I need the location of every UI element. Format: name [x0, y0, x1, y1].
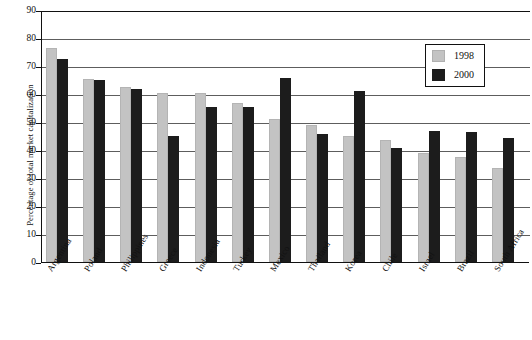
y-tick-label: 0 — [8, 258, 36, 268]
bar-2000 — [391, 148, 402, 262]
y-tick-mark — [36, 11, 41, 12]
y-tick-label: 70 — [8, 62, 36, 72]
black-swatch-icon — [432, 69, 445, 81]
x-label-cell: Korea — [343, 266, 380, 340]
bar-2000 — [94, 80, 105, 262]
bar-1998 — [455, 157, 466, 262]
bar-group — [269, 11, 306, 262]
x-label-cell: Philippines — [119, 266, 156, 340]
x-label-cell: Chile — [380, 266, 417, 340]
bar-group — [343, 11, 380, 262]
x-label-cell: South Africa — [492, 266, 529, 340]
bar-chart: Percentage of total market capitalizatio… — [0, 0, 532, 340]
bar-group — [157, 11, 194, 262]
bar-1998 — [380, 140, 391, 262]
bar-2000 — [243, 107, 254, 262]
x-axis-labels: ArgentinaPolandPhilippinesGreeceIndonesi… — [41, 266, 529, 340]
legend-label: 2000 — [454, 70, 474, 80]
y-tick-mark — [36, 179, 41, 180]
bar-group — [120, 11, 157, 262]
legend: 1998 2000 — [425, 44, 485, 87]
y-tick-label: 60 — [8, 90, 36, 100]
y-tick-label: 20 — [8, 202, 36, 212]
bar-1998 — [83, 79, 94, 262]
bar-2000 — [168, 136, 179, 262]
y-tick-mark — [36, 235, 41, 236]
bar-1998 — [157, 93, 168, 262]
bar-1998 — [46, 48, 57, 262]
bar-2000 — [429, 131, 440, 262]
bar-1998 — [418, 153, 429, 262]
y-tick-label: 10 — [8, 230, 36, 240]
x-label-cell: Brazil — [455, 266, 492, 340]
bar-2000 — [280, 78, 291, 262]
bar-1998 — [195, 93, 206, 262]
x-label-cell: Greece — [157, 266, 194, 340]
x-label-cell: Thailand — [306, 266, 343, 340]
y-tick-mark — [36, 39, 41, 40]
y-tick-label: 30 — [8, 174, 36, 184]
bar-group — [492, 11, 529, 262]
bar-2000 — [466, 132, 477, 262]
legend-item-2000: 2000 — [432, 69, 474, 81]
bar-1998 — [492, 168, 503, 262]
x-label-cell: Israel — [417, 266, 454, 340]
bar-1998 — [120, 87, 131, 262]
bar-1998 — [343, 136, 354, 262]
y-tick-mark — [36, 263, 41, 264]
y-tick-label: 40 — [8, 146, 36, 156]
x-label-cell: Indonesia — [194, 266, 231, 340]
x-label-cell: Turkey — [231, 266, 268, 340]
bar-group — [83, 11, 120, 262]
bar-1998 — [269, 119, 280, 262]
legend-item-1998: 1998 — [432, 50, 474, 62]
y-tick-mark — [36, 151, 41, 152]
bar-group — [232, 11, 269, 262]
bar-2000 — [57, 59, 68, 262]
x-label-cell: Poland — [82, 266, 119, 340]
bar-1998 — [232, 103, 243, 262]
bar-group — [46, 11, 83, 262]
y-tick-mark — [36, 67, 41, 68]
x-label-cell: Mexico — [268, 266, 305, 340]
y-tick-mark — [36, 123, 41, 124]
y-tick-label: 80 — [8, 34, 36, 44]
bar-2000 — [354, 91, 365, 262]
y-tick-mark — [36, 207, 41, 208]
legend-label: 1998 — [454, 51, 474, 61]
bar-group — [195, 11, 232, 262]
bar-group — [380, 11, 417, 262]
light-gray-swatch-icon — [432, 50, 445, 62]
y-tick-label: 90 — [8, 6, 36, 16]
bar-1998 — [306, 125, 317, 262]
y-tick-label: 50 — [8, 118, 36, 128]
bar-group — [306, 11, 343, 262]
x-label-cell: Argentina — [45, 266, 82, 340]
y-tick-mark — [36, 95, 41, 96]
